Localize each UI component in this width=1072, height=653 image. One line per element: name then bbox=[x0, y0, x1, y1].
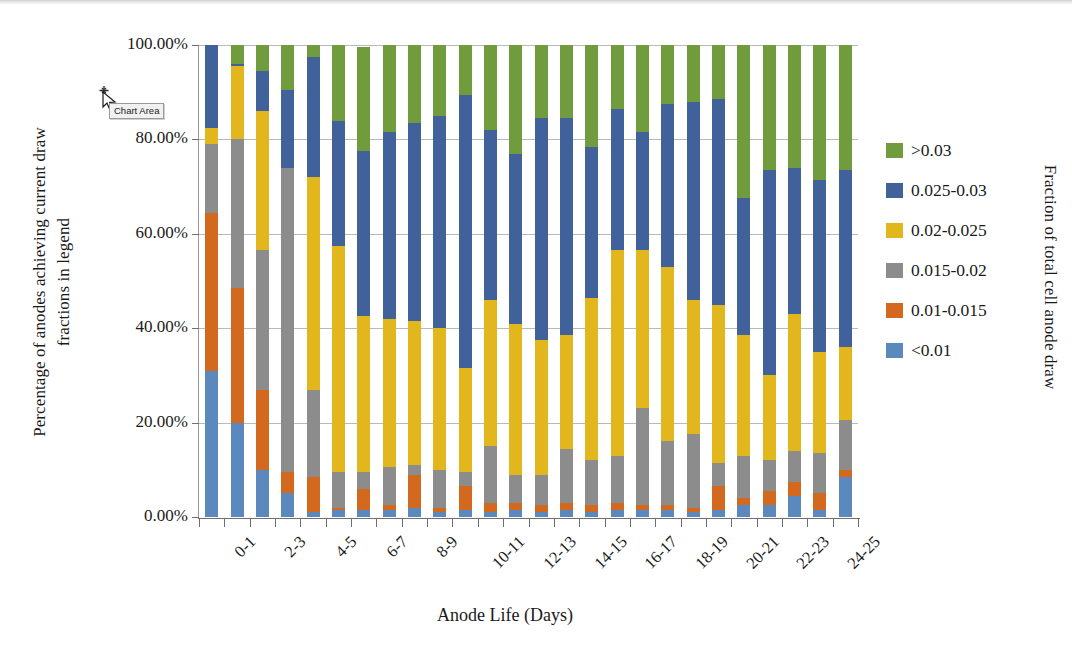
bar-segment[interactable] bbox=[408, 465, 421, 474]
bar-segment[interactable] bbox=[737, 456, 750, 498]
bar-segment[interactable] bbox=[383, 45, 396, 132]
bar-segment[interactable] bbox=[585, 505, 598, 512]
bar-segment[interactable] bbox=[636, 510, 649, 517]
bar-segment[interactable] bbox=[383, 319, 396, 468]
bar-segment[interactable] bbox=[383, 510, 396, 517]
bar-segment[interactable] bbox=[205, 144, 218, 212]
bar-segment[interactable] bbox=[433, 116, 446, 328]
bar-segment[interactable] bbox=[408, 508, 421, 517]
bar-segment[interactable] bbox=[408, 475, 421, 508]
bar-segment[interactable] bbox=[813, 453, 826, 493]
bar-segment[interactable] bbox=[357, 316, 370, 472]
bar-segment[interactable] bbox=[509, 510, 522, 517]
bar-segment[interactable] bbox=[231, 288, 244, 423]
stacked-bar[interactable] bbox=[611, 45, 624, 517]
bar-segment[interactable] bbox=[611, 456, 624, 503]
bar-segment[interactable] bbox=[281, 45, 294, 90]
bar-segment[interactable] bbox=[712, 486, 725, 510]
stacked-bar[interactable] bbox=[484, 45, 497, 517]
bar-segment[interactable] bbox=[205, 128, 218, 145]
stacked-bar[interactable] bbox=[560, 45, 573, 517]
stacked-bar[interactable] bbox=[788, 45, 801, 517]
bar-segment[interactable] bbox=[839, 470, 852, 477]
bar-segment[interactable] bbox=[687, 434, 700, 507]
bar-segment[interactable] bbox=[611, 510, 624, 517]
stacked-bar[interactable] bbox=[712, 45, 725, 517]
stacked-bar[interactable] bbox=[332, 45, 345, 517]
bar-segment[interactable] bbox=[611, 45, 624, 109]
bar-segment[interactable] bbox=[712, 463, 725, 487]
bar-segment[interactable] bbox=[535, 505, 548, 512]
bar-segment[interactable] bbox=[256, 390, 269, 470]
bar-segment[interactable] bbox=[788, 168, 801, 314]
legend-item[interactable]: 0.025-0.03 bbox=[886, 170, 1036, 210]
bar-segment[interactable] bbox=[256, 71, 269, 111]
bar-segment[interactable] bbox=[737, 198, 750, 335]
bar-segment[interactable] bbox=[535, 475, 548, 506]
bar-segment[interactable] bbox=[560, 335, 573, 448]
bar-segment[interactable] bbox=[332, 510, 345, 517]
stacked-bar[interactable] bbox=[459, 45, 472, 517]
bar-segment[interactable] bbox=[459, 368, 472, 472]
stacked-bar[interactable] bbox=[256, 45, 269, 517]
bar-segment[interactable] bbox=[307, 512, 320, 517]
bar-segment[interactable] bbox=[332, 472, 345, 507]
stacked-bar[interactable] bbox=[383, 45, 396, 517]
bar-segment[interactable] bbox=[307, 390, 320, 477]
plot-area[interactable] bbox=[199, 45, 858, 517]
stacked-bar[interactable] bbox=[661, 45, 674, 517]
bar-segment[interactable] bbox=[712, 305, 725, 463]
bar-segment[interactable] bbox=[611, 503, 624, 510]
bar-segment[interactable] bbox=[611, 109, 624, 251]
bar-segment[interactable] bbox=[636, 250, 649, 408]
bar-segment[interactable] bbox=[636, 45, 649, 132]
bar-segment[interactable] bbox=[636, 132, 649, 250]
bar-segment[interactable] bbox=[661, 267, 674, 442]
bar-segment[interactable] bbox=[839, 170, 852, 347]
bar-segment[interactable] bbox=[307, 45, 320, 57]
bar-segment[interactable] bbox=[813, 493, 826, 510]
bar-segment[interactable] bbox=[484, 45, 497, 130]
bar-segment[interactable] bbox=[332, 246, 345, 473]
bar-segment[interactable] bbox=[231, 45, 244, 64]
bar-segment[interactable] bbox=[231, 139, 244, 288]
bar-segment[interactable] bbox=[205, 45, 218, 128]
bar-segment[interactable] bbox=[256, 250, 269, 389]
bar-segment[interactable] bbox=[585, 147, 598, 298]
bar-segment[interactable] bbox=[307, 477, 320, 512]
bar-segment[interactable] bbox=[281, 90, 294, 168]
legend[interactable]: >0.030.025-0.030.02-0.0250.015-0.020.01-… bbox=[886, 130, 1036, 370]
stacked-bar[interactable] bbox=[839, 45, 852, 517]
bar-segment[interactable] bbox=[560, 118, 573, 335]
bar-segment[interactable] bbox=[433, 512, 446, 517]
legend-item[interactable]: >0.03 bbox=[886, 130, 1036, 170]
bar-segment[interactable] bbox=[433, 470, 446, 508]
bar-segment[interactable] bbox=[788, 496, 801, 517]
bar-segment[interactable] bbox=[459, 45, 472, 95]
legend-item[interactable]: 0.015-0.02 bbox=[886, 250, 1036, 290]
bar-segment[interactable] bbox=[383, 467, 396, 505]
bar-segment[interactable] bbox=[408, 45, 421, 123]
bar-segment[interactable] bbox=[256, 45, 269, 71]
bar-segment[interactable] bbox=[839, 45, 852, 170]
bar-segment[interactable] bbox=[813, 510, 826, 517]
bar-segment[interactable] bbox=[763, 45, 776, 170]
bar-segment[interactable] bbox=[332, 45, 345, 121]
legend-item[interactable]: 0.01-0.015 bbox=[886, 290, 1036, 330]
bar-segment[interactable] bbox=[712, 45, 725, 99]
bar-segment[interactable] bbox=[560, 449, 573, 503]
bar-segment[interactable] bbox=[433, 45, 446, 116]
bar-segment[interactable] bbox=[737, 498, 750, 505]
bar-segment[interactable] bbox=[509, 45, 522, 154]
bar-segment[interactable] bbox=[484, 446, 497, 503]
bar-segment[interactable] bbox=[231, 66, 244, 139]
bar-segment[interactable] bbox=[813, 45, 826, 180]
bar-segment[interactable] bbox=[205, 371, 218, 517]
bar-segment[interactable] bbox=[763, 460, 776, 491]
bar-segment[interactable] bbox=[687, 300, 700, 435]
bar-segment[interactable] bbox=[459, 95, 472, 369]
bar-segment[interactable] bbox=[763, 505, 776, 517]
stacked-bar[interactable] bbox=[231, 45, 244, 517]
bar-segment[interactable] bbox=[281, 493, 294, 517]
bar-segment[interactable] bbox=[661, 510, 674, 517]
